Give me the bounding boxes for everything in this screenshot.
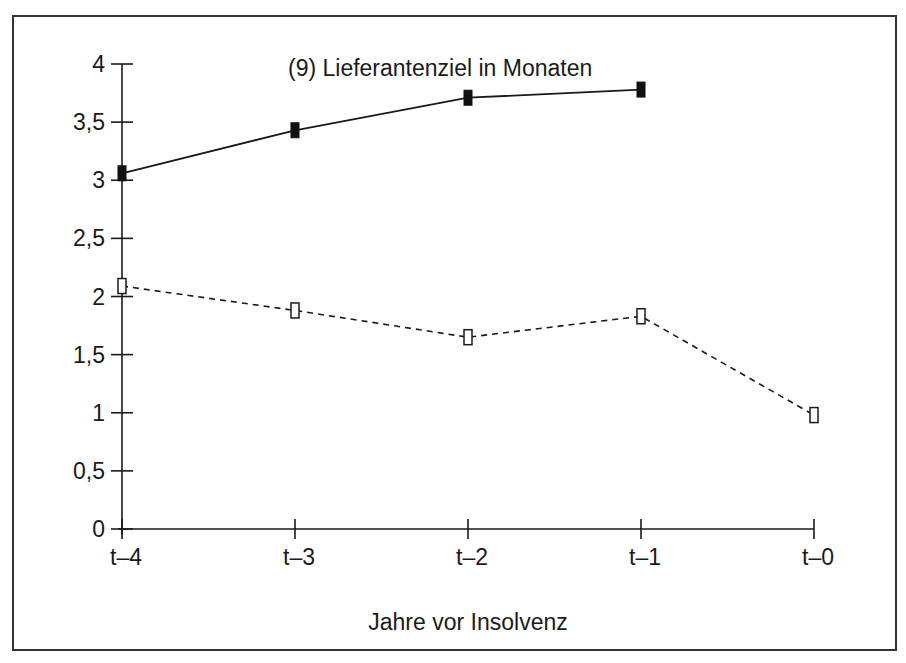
filled-square-marker-icon: [464, 90, 472, 105]
y-tick-label: 0: [92, 516, 105, 542]
y-tick-label: 3: [92, 167, 105, 193]
filled-square-marker-icon: [291, 123, 299, 138]
y-tick-label: 1,5: [73, 342, 105, 368]
open-square-marker-icon: [464, 330, 472, 345]
chart-frame: [13, 16, 896, 650]
filled-square-marker-icon: [637, 82, 645, 97]
x-axis-label: Jahre vor Insolvenz: [368, 609, 567, 635]
open-square-marker-icon: [637, 309, 645, 324]
y-tick-label: 1: [92, 400, 105, 426]
x-tick-label: t–1: [629, 544, 661, 570]
series-line-filled-markers-solid-line: [122, 90, 641, 174]
y-axis: 00,511,522,533,54: [73, 51, 133, 542]
x-tick-label: t–2: [456, 544, 488, 570]
open-square-marker-icon: [810, 408, 818, 423]
series-layer: [118, 82, 818, 423]
y-tick-label: 2: [92, 284, 105, 310]
open-square-marker-icon: [118, 279, 126, 294]
chart-title: (9) Lieferantenziel in Monaten: [288, 55, 592, 81]
x-tick-label: t–3: [283, 544, 315, 570]
x-tick-label: t–4: [110, 544, 142, 570]
chart-canvas: (9) Lieferantenziel in Monaten 00,511,52…: [0, 0, 906, 663]
y-tick-label: 3,5: [73, 109, 105, 135]
x-tick-label: t–0: [802, 544, 834, 570]
y-tick-label: 0,5: [73, 458, 105, 484]
open-square-marker-icon: [291, 303, 299, 318]
x-axis: t–4t–3t–2t–1t–0: [110, 519, 834, 570]
series-line-open-markers-dashed-line: [122, 286, 814, 415]
y-tick-label: 2,5: [73, 225, 105, 251]
filled-square-marker-icon: [118, 166, 126, 181]
y-tick-label: 4: [92, 51, 105, 77]
